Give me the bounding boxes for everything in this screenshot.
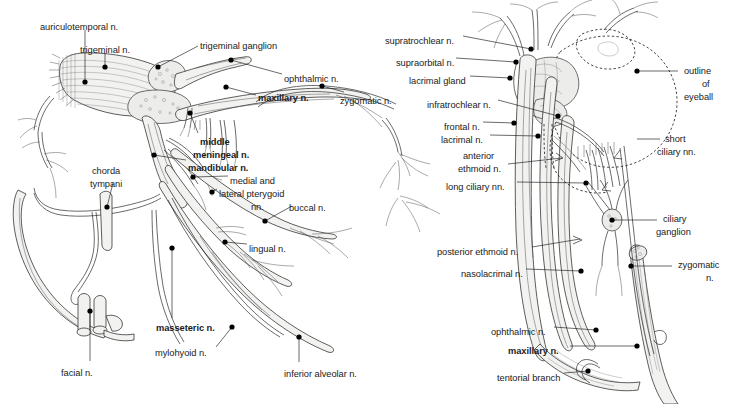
label-of: of [702,79,710,90]
label-short: short [665,134,685,145]
label-ciliary-nn: ciliary nn. [657,147,696,158]
label-posterior-ethmoid-n: posterior ethmoid n. [437,247,518,258]
label-ciliary: ciliary [663,214,686,225]
label-facial-n: facial n. [61,368,93,379]
label-mylohyoid-n: mylohyoid n. [155,348,207,359]
label-auriculotemporal-n: auriculotemporal n. [40,22,118,33]
label-maxillary-n-right: maxillary n. [508,346,559,357]
label-ganglion: ganglion [656,227,691,238]
label-ophthalmic-n-right: ophthalmic n. [491,327,546,338]
label-anterior: anterior [463,151,494,162]
label-pterygoid-nn: nn. [251,202,264,213]
label-mandibular-n: mandibular n. [188,163,248,174]
label-eyeball: eyeball [684,92,713,103]
label-trigeminal-n: trigeminal n. [80,45,130,56]
label-medial-and: medial and [230,176,275,187]
label-supraorbital-n: supraorbital n. [396,58,454,69]
label-zygomatic-n-right: zygomatic [678,260,719,271]
label-ethmoid-n: ethmoid n. [458,164,501,175]
label-masseteric-n: masseteric n. [156,323,215,334]
label-lacrimal-n: lacrimal n. [441,135,483,146]
label-middle: middle [200,137,230,148]
figure-artwork [0,0,755,404]
label-lateral-pterygoid: lateral pterygoid [219,189,284,200]
label-infratrochlear-n: infratrochlear n. [427,100,491,111]
label-tympani: tympani [90,179,122,190]
label-frontal-n: frontal n. [444,122,480,133]
label-trigeminal-ganglion: trigeminal ganglion [200,41,277,52]
label-zygomatic-n-right-2: n. [706,273,714,284]
label-tentorial-branch: tentorial branch [497,373,560,384]
label-supratrochlear-n: supratrochlear n. [385,36,454,47]
label-zygomatic-n-left: zygomatic n. [340,96,392,107]
label-chorda: chorda [92,166,120,177]
label-meningeal-n: meningeal n. [193,150,249,161]
label-nasolacrimal-n: nasolacrimal n. [461,269,523,280]
label-lacrimal-gland: lacrimal gland [409,76,466,87]
label-outline: outline [684,66,711,77]
label-lingual-n: lingual n. [249,244,286,255]
label-inferior-alveolar-n: inferior alveolar n. [284,369,357,380]
label-ophthalmic-n-left: ophthalmic n. [284,74,339,85]
label-maxillary-n-left: maxillary n. [258,93,309,104]
label-buccal-n: buccal n. [289,203,326,214]
anatomical-figure: auriculotemporal n. trigeminal n. trigem… [0,0,755,404]
label-long-ciliary-nn: long ciliary nn. [446,182,505,193]
